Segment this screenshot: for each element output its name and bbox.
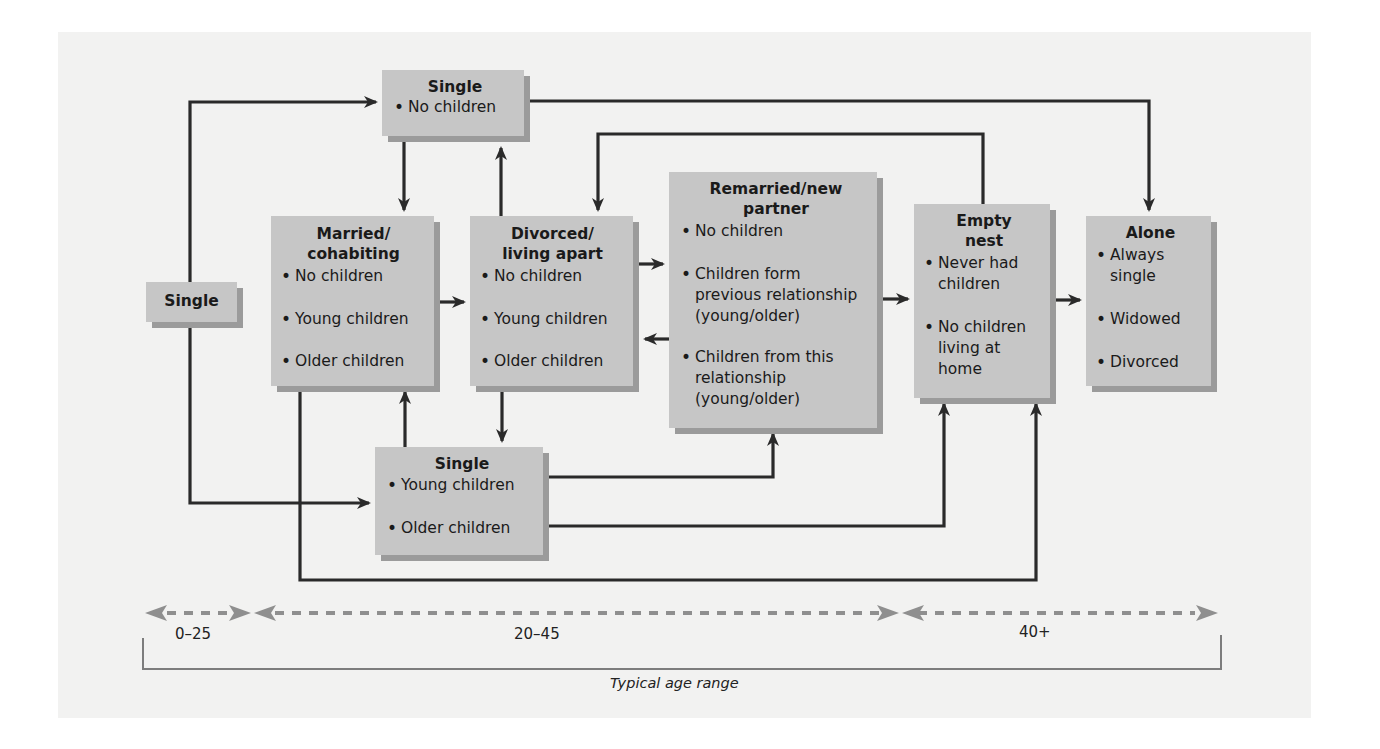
age-label-20-45: 20–45 [514,625,560,643]
node-item: Older children [480,351,625,372]
node-title: Single [146,291,237,311]
node-single-with-children: Single Young children Older children [375,447,543,555]
node-remarried: Remarried/new partner No children Childr… [669,172,877,428]
node-title: Alone [1096,223,1205,243]
node-item: No children [480,266,625,287]
node-title: Remarried/new partner [681,179,871,219]
node-item: No children [281,266,426,287]
node-item: No children [681,221,871,242]
node-item: Always single [1096,245,1205,287]
node-item: No children living at home [924,317,1044,380]
age-label-0-25: 0–25 [175,625,211,643]
title-line: Divorced/ [480,224,625,244]
node-title: Single [387,454,537,474]
node-item: Young children [387,475,537,496]
node-single-start: Single [146,282,237,322]
node-item: Children from this relationship (young/o… [681,347,871,410]
node-item: Never had children [924,253,1044,295]
title-line: Married/ [281,224,426,244]
node-title: Empty nest [924,211,1044,251]
age-label-40-plus: 40+ [1019,623,1051,641]
node-alone: Alone Always single Widowed Divorced [1086,216,1211,386]
age-range-caption: Typical age range [610,675,739,691]
title-line: living apart [480,244,625,264]
node-single-no-children: Single No children [382,70,524,136]
age-bracket [143,635,1221,669]
title-line: Remarried/new [681,179,871,199]
node-item: Older children [281,351,426,372]
node-title: Divorced/ living apart [480,224,625,264]
edge-single-children-to-remarried [549,434,773,477]
node-item: Older children [387,518,537,539]
title-line: partner [681,199,871,219]
node-married: Married/ cohabiting No children Young ch… [271,216,434,386]
node-title: Married/ cohabiting [281,224,426,264]
node-item: No children [394,97,516,118]
title-line: nest [924,231,1044,251]
node-divorced: Divorced/ living apart No children Young… [470,216,633,386]
node-item: Young children [281,309,426,330]
title-line: cohabiting [281,244,426,264]
node-item: Young children [480,309,625,330]
node-title: Single [394,77,516,97]
node-empty-nest: Empty nest Never had children No childre… [914,204,1050,398]
title-line: Empty [924,211,1044,231]
node-item: Divorced [1096,352,1205,373]
node-item: Widowed [1096,309,1205,330]
node-item: Children form previous relationship (you… [681,264,871,327]
